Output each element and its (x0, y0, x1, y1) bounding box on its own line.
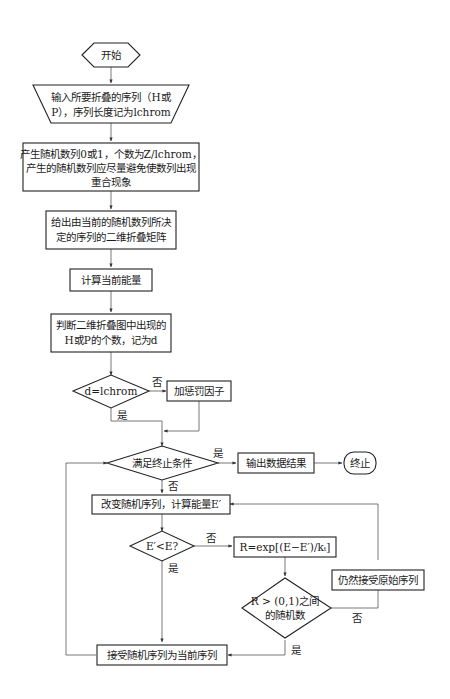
node-calc-energy: 计算当前能量 (70, 269, 152, 291)
node-input: 输入所要折叠的序列（H或 P），序列长度记为lchrom (33, 85, 189, 123)
svg-text:给出由当前的随机数列所决: 给出由当前的随机数列所决 (51, 216, 172, 228)
label-rcheck-yes: 是 (291, 644, 302, 656)
label-compare-no: 否 (206, 532, 217, 544)
svg-text:d=lchrom: d=lchrom (85, 385, 138, 397)
node-compare-e: E′<E? (130, 531, 194, 561)
edge-accept-loop (66, 463, 107, 655)
svg-text:输出数据结果: 输出数据结果 (246, 457, 307, 469)
svg-text:R=exp[(E−E′)/kₜ]: R=exp[(E−E′)/kₜ] (240, 541, 331, 553)
svg-text:R > (0,1)之间: R > (0,1)之间 (251, 595, 319, 607)
svg-text:计算当前能量: 计算当前能量 (81, 274, 142, 286)
svg-text:接受随机序列为当前序列: 接受随机序列为当前序列 (107, 649, 217, 661)
svg-text:E′<E?: E′<E? (146, 540, 179, 552)
svg-text:P），序列长度记为lchrom: P），序列长度记为lchrom (51, 106, 170, 118)
node-count-hp: 判断二维折叠图中出现的 H或P的个数，记为d (51, 314, 171, 352)
node-accept-seq: 接受随机序列为当前序列 (97, 645, 227, 665)
svg-text:产生的随机数列应尽量避免使数列出现: 产生的随机数列应尽量避免使数列出现 (26, 162, 197, 174)
label-checkd-no: 否 (152, 376, 163, 388)
label-terminate-no: 否 (168, 480, 179, 492)
node-gen-random: 产生随机数列0或1，个数为Z/lchrom， 产生的随机数列应尽量避免使数列出现… (20, 143, 202, 191)
node-terminate-check: 满足终止条件 (107, 446, 218, 480)
label-checkd-yes: 是 (117, 409, 128, 421)
flowchart: 否 是 是 否 否 是 否 是 开始 输入所要折叠的序列（H或 P），序列长度记… (0, 0, 450, 699)
node-output: 输出数据结果 (238, 453, 314, 473)
svg-text:定的序列的二维折叠矩阵: 定的序列的二维折叠矩阵 (56, 231, 167, 243)
node-matrix: 给出由当前的随机数列所决 定的序列的二维折叠矩阵 (46, 211, 176, 249)
node-end: 终止 (344, 452, 376, 474)
svg-text:改变随机序列，计算能量E′: 改变随机序列，计算能量E′ (101, 498, 222, 510)
node-change-seq: 改变随机序列，计算能量E′ (92, 495, 230, 514)
edge-penalty-merge (164, 401, 199, 431)
svg-text:H或P的个数，记为d: H或P的个数，记为d (65, 334, 158, 346)
svg-text:重合现象: 重合现象 (91, 176, 131, 188)
node-penalty: 加惩罚因子 (167, 381, 231, 401)
svg-text:产生随机数列0或1，个数为Z/lchrom，: 产生随机数列0或1，个数为Z/lchrom， (20, 148, 202, 160)
svg-text:的随机数: 的随机数 (265, 609, 306, 621)
node-compute-r: R=exp[(E−E′)/kₜ] (234, 537, 336, 557)
svg-text:判断二维折叠图中出现的: 判断二维折叠图中出现的 (56, 319, 166, 331)
node-keep-original: 仍然接受原始序列 (332, 570, 424, 590)
node-check-d: d=lchrom (73, 375, 149, 408)
node-r-check: R > (0,1)之间 的随机数 (242, 578, 331, 638)
svg-text:终止: 终止 (350, 457, 370, 469)
label-compare-yes: 是 (168, 562, 179, 574)
svg-text:加惩罚因子: 加惩罚因子 (174, 385, 224, 397)
label-terminate-yes: 是 (213, 447, 224, 459)
svg-text:开始: 开始 (101, 49, 122, 61)
svg-text:输入所要折叠的序列（H或: 输入所要折叠的序列（H或 (51, 91, 171, 103)
edge-rcheck-accept (228, 640, 285, 655)
svg-text:满足终止条件: 满足终止条件 (132, 457, 192, 469)
node-start: 开始 (82, 43, 140, 67)
label-rcheck-no: 否 (352, 612, 363, 624)
edge-labels: 否 是 是 否 否 是 否 是 (117, 376, 363, 656)
svg-text:仍然接受原始序列: 仍然接受原始序列 (338, 574, 418, 586)
